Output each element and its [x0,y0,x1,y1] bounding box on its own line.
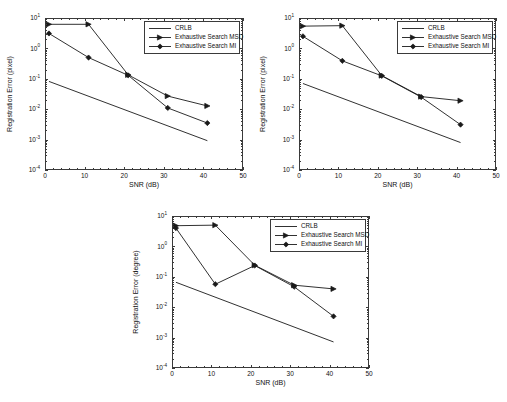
data-point-marker [331,286,336,291]
legend-item-exhaustive-search-mi: Exhaustive Search MI [400,42,489,51]
legend-marker-diamond-icon [147,42,173,51]
legend-marker-triangle-right-icon [273,231,299,240]
legend-marker-line-icon [273,222,299,231]
legend-item-crlb: CRLB [400,24,489,33]
series-line-crlb [176,282,334,342]
legend-label: CRLB [299,223,318,229]
legend: CRLBExhaustive Search MSDExhaustive Sear… [270,219,366,252]
legend-label: Exhaustive Search MSD [426,34,496,40]
legend-label: Exhaustive Search MSD [299,232,369,238]
legend-marker-diamond-icon [400,42,426,51]
legend-marker-triangle-right-icon [147,33,173,42]
legend-item-exhaustive-search-msd: Exhaustive Search MSD [147,33,236,42]
legend-label: Exhaustive Search MSD [173,34,243,40]
series-line-crlb [303,84,461,143]
legend-label: Exhaustive Search MI [299,241,362,247]
data-point-marker [86,55,91,60]
chart-top-left: 0102030405010110010-110-210-310-4SNR (dB… [0,0,253,200]
chart-top-right: 0102030405010110010-110-210-310-4SNR (dB… [253,0,507,200]
legend-label: Exhaustive Search MI [173,43,236,49]
legend-marker-line-icon [400,24,426,33]
data-point-marker [46,31,51,36]
legend: CRLBExhaustive Search MSDExhaustive Sear… [144,21,240,54]
legend: CRLBExhaustive Search MSDExhaustive Sear… [397,21,493,54]
legend-marker-triangle-right-icon [400,33,426,42]
plot-area: 0102030405010110010-110-210-310-4SNR (dB… [126,200,381,395]
series-line-crlb [49,81,207,140]
data-point-marker [165,93,170,98]
data-point-marker [458,98,463,103]
legend-item-exhaustive-search-mi: Exhaustive Search MI [273,240,362,249]
data-point-marker [46,22,51,27]
data-point-marker [205,103,210,108]
legend-item-exhaustive-search-mi: Exhaustive Search MI [147,42,236,51]
legend-marker-diamond-icon [273,240,299,249]
legend-label: Exhaustive Search MI [426,43,489,49]
data-point-marker [205,120,210,125]
legend-item-crlb: CRLB [147,24,236,33]
legend-item-crlb: CRLB [273,222,362,231]
data-point-marker [300,34,305,39]
legend-label: CRLB [173,25,192,31]
plot-area: 0102030405010110010-110-210-310-4SNR (dB… [253,0,507,200]
legend-label: CRLB [426,25,445,31]
legend-marker-line-icon [147,24,173,33]
legend-item-exhaustive-search-msd: Exhaustive Search MSD [273,231,362,240]
data-point-marker [340,58,345,63]
chart-bottom: 0102030405010110010-110-210-310-4SNR (dB… [126,200,381,395]
plot-area: 0102030405010110010-110-210-310-4SNR (dB… [0,0,253,200]
legend-item-exhaustive-search-msd: Exhaustive Search MSD [400,33,489,42]
data-point-marker [300,24,305,29]
